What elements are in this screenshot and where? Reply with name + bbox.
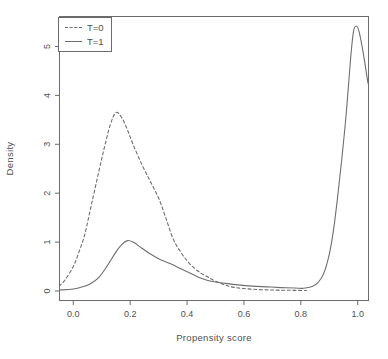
x-tick-label: 0.8	[295, 309, 308, 319]
plot-canvas: 0.00.20.40.60.81.0012345	[0, 0, 388, 359]
y-tick-label: 4	[42, 93, 52, 98]
x-axis-title: Propensity score	[59, 332, 369, 343]
propensity-density-plot: 0.00.20.40.60.81.0012345 Density Propens…	[0, 0, 388, 359]
legend-entry-t0: T=0	[59, 23, 111, 33]
y-tick-label: 0	[42, 288, 52, 293]
density-curve-T0	[59, 112, 306, 290]
legend-label-t0: T=0	[87, 23, 104, 33]
y-axis-title: Density	[4, 94, 15, 224]
solid-line-sample	[65, 41, 82, 42]
legend-label-t1: T=1	[87, 37, 104, 47]
x-tick-label: 0.0	[67, 309, 80, 319]
x-tick-label: 0.4	[181, 309, 194, 319]
plot-border	[60, 17, 369, 301]
density-curve-T1	[59, 26, 368, 290]
y-tick-label: 5	[42, 44, 52, 49]
y-tick-label: 2	[42, 191, 52, 196]
y-tick-label: 1	[42, 240, 52, 245]
legend: T=0 T=1	[58, 17, 112, 52]
x-tick-label: 0.6	[238, 309, 251, 319]
x-tick-label: 1.0	[351, 309, 364, 319]
x-tick-label: 0.2	[124, 309, 137, 319]
legend-entry-t1: T=1	[59, 37, 111, 47]
dashed-line-sample	[65, 27, 82, 28]
y-tick-label: 3	[42, 142, 52, 147]
